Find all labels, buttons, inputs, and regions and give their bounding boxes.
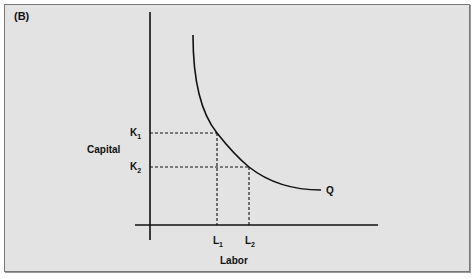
k2-label: K2 — [130, 161, 141, 174]
isoquant-diagram: Q K1 K2 L1 L2 Capital Labor — [0, 0, 473, 279]
k1-label: K1 — [130, 127, 141, 140]
x-axis-label: Labor — [220, 255, 248, 266]
l2-label: L2 — [245, 235, 255, 248]
y-axis-label: Capital — [87, 144, 121, 155]
l1-label: L1 — [213, 235, 223, 248]
curve-label-q: Q — [326, 185, 334, 196]
